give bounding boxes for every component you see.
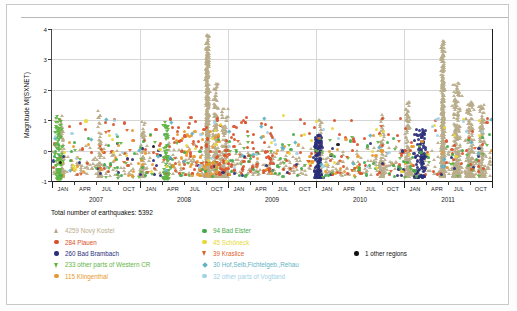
data-point xyxy=(147,159,151,162)
data-point xyxy=(299,151,302,154)
legend-item[interactable]: 32 other parts of Vogtland xyxy=(199,271,359,282)
data-point xyxy=(173,157,177,160)
data-point xyxy=(318,169,321,172)
x-tick xyxy=(206,181,207,185)
x-tick-label: JUL xyxy=(454,186,465,192)
data-point xyxy=(336,143,339,146)
data-point xyxy=(301,146,305,149)
data-point xyxy=(206,63,210,66)
data-point xyxy=(109,162,112,165)
data-point xyxy=(228,129,232,133)
data-point xyxy=(180,156,183,159)
data-point xyxy=(229,159,232,162)
data-point xyxy=(112,123,115,126)
data-point xyxy=(379,125,383,128)
data-point xyxy=(98,167,102,170)
data-point xyxy=(440,173,443,176)
data-point xyxy=(139,171,143,174)
x-tick-label: OCT xyxy=(211,186,223,192)
data-point xyxy=(386,141,389,144)
legend-item[interactable]: 30 Hof,Selb,Fichtelgeb.,Rehau xyxy=(199,259,359,270)
data-point xyxy=(163,124,167,127)
x-tick-label: JAN xyxy=(57,186,68,192)
data-point xyxy=(283,158,287,161)
legend-item[interactable]: 233 other parts of Western CR xyxy=(51,259,201,270)
data-point xyxy=(341,150,345,153)
legend-marker-circle-icon xyxy=(51,237,62,248)
data-point xyxy=(224,168,228,171)
data-point xyxy=(337,137,340,140)
data-point xyxy=(181,137,184,140)
data-point xyxy=(220,113,224,116)
legend-item[interactable]: 115 Klingenthal xyxy=(51,271,201,282)
legend-item[interactable]: 39 Kraslice xyxy=(199,248,359,259)
data-point xyxy=(454,113,458,116)
data-point xyxy=(54,131,58,134)
data-point xyxy=(150,173,154,176)
data-point xyxy=(363,137,366,140)
data-point xyxy=(179,174,182,177)
data-point xyxy=(282,168,285,171)
data-point xyxy=(115,158,118,161)
data-point xyxy=(477,165,480,168)
legend-item-label: 4259 Nový Kostel xyxy=(65,227,114,234)
data-point xyxy=(171,126,174,129)
data-point xyxy=(365,173,368,176)
data-point xyxy=(455,100,459,103)
data-point xyxy=(217,138,220,141)
data-point xyxy=(97,121,101,124)
data-point xyxy=(123,121,126,124)
data-point xyxy=(265,164,268,167)
data-point xyxy=(404,136,408,139)
data-point xyxy=(244,121,247,124)
data-point xyxy=(205,163,208,166)
data-point xyxy=(205,77,209,80)
data-point xyxy=(252,147,255,150)
x-tick-label: JUL xyxy=(366,186,377,192)
legend-item[interactable]: 1 other regions xyxy=(351,248,481,259)
data-point xyxy=(441,41,445,44)
data-point xyxy=(450,148,453,151)
data-point xyxy=(141,127,145,130)
data-point xyxy=(144,174,147,177)
data-point xyxy=(199,155,202,158)
data-point xyxy=(351,161,355,165)
x-tick-label: APR xyxy=(79,186,91,192)
legend-item[interactable]: 45 Schöneck xyxy=(199,236,359,247)
data-point xyxy=(274,143,277,146)
data-point xyxy=(488,133,491,136)
data-point xyxy=(122,169,126,172)
data-point xyxy=(308,155,311,158)
data-point xyxy=(350,119,353,122)
data-point xyxy=(105,166,108,169)
data-point xyxy=(455,90,459,93)
legend-item[interactable]: 284 Plauen xyxy=(51,236,201,247)
data-point xyxy=(374,154,377,157)
data-point xyxy=(345,156,349,159)
data-point xyxy=(352,140,355,143)
data-point xyxy=(338,160,342,163)
data-point xyxy=(141,166,144,169)
legend-item[interactable]: 94 Bad Elster xyxy=(199,225,359,236)
x-tick-label: OCT xyxy=(123,186,135,192)
data-point xyxy=(53,155,56,158)
y-tick-label: 3 xyxy=(44,56,47,63)
data-point xyxy=(455,123,459,126)
data-point xyxy=(131,158,134,161)
data-point xyxy=(381,144,384,147)
data-point xyxy=(58,130,62,133)
data-point xyxy=(97,131,101,134)
data-point xyxy=(152,151,155,154)
data-point xyxy=(197,140,200,143)
data-point xyxy=(163,174,167,177)
data-point xyxy=(376,141,380,144)
data-point xyxy=(399,117,402,120)
data-point xyxy=(485,121,488,124)
data-point xyxy=(467,175,471,178)
y-tick xyxy=(48,120,52,121)
data-point xyxy=(445,139,448,142)
data-point xyxy=(59,164,63,167)
legend-item[interactable]: 4259 Nový Kostel xyxy=(51,225,201,236)
legend-item[interactable]: 260 Bad Brambach xyxy=(51,248,201,259)
data-point xyxy=(54,125,58,128)
